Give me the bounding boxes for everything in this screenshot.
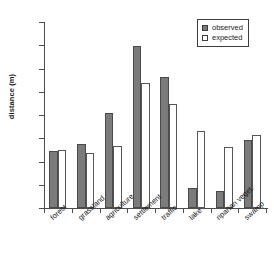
legend-swatch-observed-icon (202, 25, 208, 31)
legend-swatch-expected-icon (202, 35, 208, 41)
y-axis-title: distance (m) (7, 63, 16, 131)
plot-area (44, 22, 266, 208)
legend-item-expected[interactable]: expected (202, 33, 243, 43)
x-axis-tick (238, 209, 239, 213)
bar-observed-agriculture (105, 113, 114, 208)
x-axis-tick (100, 209, 101, 213)
legend-item-observed[interactable]: observed (202, 23, 243, 33)
bar-observed-grassland (77, 144, 86, 208)
x-axis-tick (44, 209, 45, 213)
bar-observed-settlement (133, 46, 142, 208)
bar-observed-lake (188, 188, 197, 208)
chart-legend: observed expected (197, 19, 249, 47)
bar-expected-forest (58, 150, 67, 208)
bar-expected-swamp (252, 135, 261, 208)
x-axis-tick (266, 209, 267, 213)
bar-expected-lake (197, 131, 206, 208)
bar-observed-forest (49, 151, 58, 208)
x-axis-tick (211, 209, 212, 213)
legend-label-observed: observed (212, 24, 243, 32)
bar-expected-traffic (169, 104, 178, 208)
bar-chart: distance (m) 050010001500200025003000350… (0, 0, 274, 274)
bar-observed-traffic (160, 77, 169, 208)
x-axis-tick (155, 209, 156, 213)
x-axis-tick (183, 209, 184, 213)
x-axis-label-lake: lake (188, 207, 204, 222)
bar-expected-settlement (141, 83, 150, 208)
bar-observed-riparian-veget- (216, 191, 225, 208)
x-axis-tick (127, 209, 128, 213)
x-axis-tick (72, 209, 73, 213)
legend-label-expected: expected (212, 34, 242, 42)
